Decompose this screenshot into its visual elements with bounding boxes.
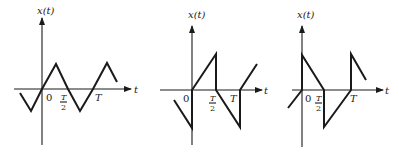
waveform xyxy=(20,63,117,111)
period-label: T xyxy=(230,93,238,104)
t-axis-label: t xyxy=(264,85,269,96)
origin-label: 0 xyxy=(46,92,52,103)
panel-triangle-wave: x(t) t 0 T 2 T xyxy=(14,5,139,145)
half-period-num: T xyxy=(210,94,216,103)
origin-label: 0 xyxy=(305,93,311,104)
y-axis-label: x(t) xyxy=(297,9,315,20)
y-axis-label: x(t) xyxy=(37,5,55,16)
panel-sawtooth-decaying: x(t) t 0 T 2 T xyxy=(288,9,390,147)
t-axis-label: t xyxy=(134,84,139,95)
origin-label: 0 xyxy=(183,93,189,104)
half-period-den: 2 xyxy=(210,104,215,113)
panel-sawtooth-alternating: x(t) t 0 T 2 T xyxy=(160,9,269,145)
half-period-num: T xyxy=(61,93,67,102)
period-label: T xyxy=(350,93,358,104)
half-period-den: 2 xyxy=(61,103,66,112)
half-period-den: 2 xyxy=(316,104,321,113)
signal-figure: x(t) t 0 T 2 T x(t) t 0 T 2 T x(t) t 0 T… xyxy=(0,0,399,152)
waveform xyxy=(174,54,257,128)
half-period-num: T xyxy=(316,94,322,103)
y-axis-label: x(t) xyxy=(188,9,206,20)
t-axis-label: t xyxy=(385,85,390,96)
period-label: T xyxy=(95,92,103,103)
